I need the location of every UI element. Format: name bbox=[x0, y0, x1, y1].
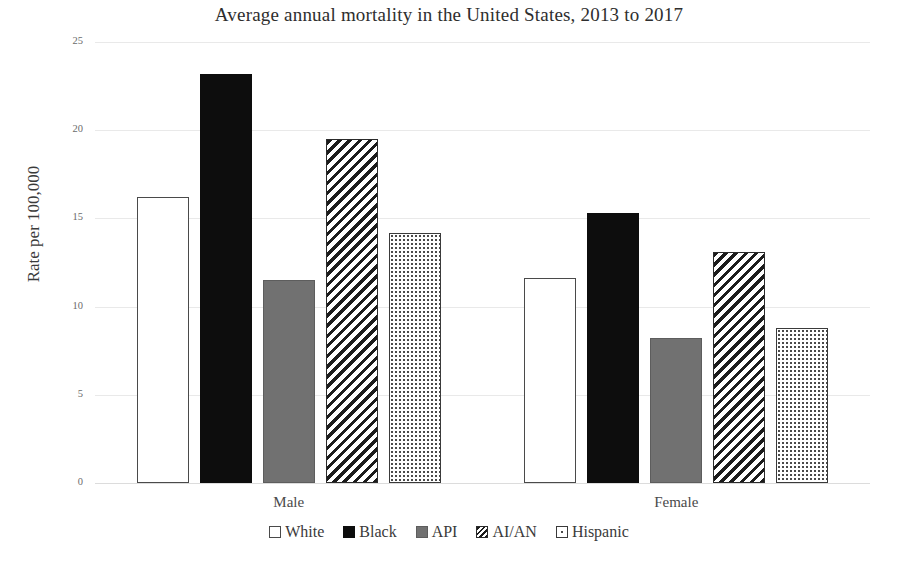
legend-item-hispanic[interactable]: Hispanic bbox=[556, 524, 629, 540]
legend-label: White bbox=[285, 524, 324, 540]
legend-swatch-black-icon bbox=[343, 526, 355, 538]
chart-container: Average annual mortality in the United S… bbox=[0, 0, 898, 562]
legend-swatch-api-icon bbox=[416, 526, 428, 538]
bar-male-black bbox=[200, 74, 252, 483]
bar-female-white bbox=[524, 278, 576, 483]
legend-swatch-white-icon bbox=[269, 526, 281, 538]
legend-item-api[interactable]: API bbox=[416, 524, 458, 540]
legend-label: Black bbox=[359, 524, 396, 540]
chart-legend: WhiteBlackAPIAI/ANHispanic bbox=[0, 524, 898, 540]
bar-male-white bbox=[137, 197, 189, 483]
plot-area bbox=[95, 42, 870, 483]
gridline-0 bbox=[95, 483, 870, 484]
legend-swatch-ai-an-icon bbox=[476, 526, 488, 538]
bar-female-ai-an bbox=[713, 252, 765, 483]
gridline-25 bbox=[95, 42, 870, 43]
legend-item-white[interactable]: White bbox=[269, 524, 324, 540]
y-tick-label: 25 bbox=[23, 35, 83, 46]
bar-female-hispanic bbox=[776, 328, 828, 483]
y-tick-label: 5 bbox=[23, 388, 83, 399]
bar-male-api bbox=[263, 280, 315, 483]
legend-label: API bbox=[432, 524, 458, 540]
y-tick-label: 0 bbox=[23, 476, 83, 487]
y-tick-label: 15 bbox=[23, 211, 83, 222]
bar-female-api bbox=[650, 338, 702, 483]
legend-item-black[interactable]: Black bbox=[343, 524, 396, 540]
legend-swatch-hispanic-icon bbox=[556, 526, 568, 538]
x-category-label-female: Female bbox=[483, 494, 871, 511]
legend-item-ai-an[interactable]: AI/AN bbox=[476, 524, 536, 540]
y-tick-label: 10 bbox=[23, 300, 83, 311]
bar-female-black bbox=[587, 213, 639, 483]
bar-male-ai-an bbox=[326, 139, 378, 483]
chart-title: Average annual mortality in the United S… bbox=[0, 4, 898, 26]
bar-male-hispanic bbox=[389, 233, 441, 483]
y-tick-label: 20 bbox=[23, 123, 83, 134]
legend-label: AI/AN bbox=[492, 524, 536, 540]
legend-label: Hispanic bbox=[572, 524, 629, 540]
x-category-label-male: Male bbox=[95, 494, 483, 511]
